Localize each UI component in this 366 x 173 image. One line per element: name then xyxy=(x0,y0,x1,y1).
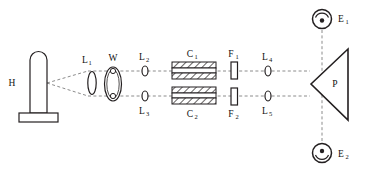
lens-L1-glyph xyxy=(88,72,96,95)
filter-F1-glyph xyxy=(231,62,238,79)
cell-C1-band-1 xyxy=(172,62,216,68)
cell-C1-gap-1 xyxy=(172,68,216,73)
cell-C2-gap-1 xyxy=(172,93,216,98)
label-C1: C xyxy=(187,49,193,59)
label-E2: E xyxy=(338,149,344,159)
optical-schematic-canvas: H L 1 W L 2 L 3 C 1 xyxy=(0,0,366,173)
cell-C2-band-1 xyxy=(172,87,216,93)
label-E2-sub: 2 xyxy=(345,153,348,160)
detector-E2-glyph xyxy=(313,144,332,163)
lamp-envelope xyxy=(30,52,47,114)
label-H: H xyxy=(9,78,16,88)
lens-L3-glyph xyxy=(142,91,148,101)
lens-L4-glyph xyxy=(265,66,271,76)
absorption-cell-C1-glyph xyxy=(172,62,216,79)
label-F1-sub: 1 xyxy=(235,53,238,60)
label-E1-sub: 1 xyxy=(345,18,348,25)
chopper-aperture-lower xyxy=(110,93,115,98)
chopper-wheel-W-glyph xyxy=(105,67,122,101)
label-L2-sub: 2 xyxy=(146,56,149,63)
detector-E1-pupil xyxy=(320,18,324,22)
label-L1: L xyxy=(82,55,88,65)
label-F2: F xyxy=(228,109,233,119)
filter-F2-glyph xyxy=(231,88,238,105)
lamp-base xyxy=(19,113,58,122)
label-L4: L xyxy=(262,52,268,62)
label-L3: L xyxy=(139,106,145,116)
label-W: W xyxy=(109,53,118,63)
optical-diagram: H L 1 W L 2 L 3 C 1 xyxy=(0,0,366,173)
lens-L2-glyph xyxy=(142,66,148,76)
label-F1: F xyxy=(228,49,233,59)
absorption-cell-C2-glyph xyxy=(172,87,216,104)
lens-L5-glyph xyxy=(265,91,271,101)
label-L5: L xyxy=(262,106,268,116)
label-L2: L xyxy=(139,52,145,62)
label-C2-sub: 2 xyxy=(194,113,197,120)
label-C1-sub: 1 xyxy=(194,53,197,60)
label-L1-sub: 1 xyxy=(88,59,91,66)
label-P: P xyxy=(332,79,337,89)
cell-C2-band-2 xyxy=(172,98,216,104)
cell-C1-band-2 xyxy=(172,73,216,79)
detector-E2-pupil xyxy=(320,149,324,153)
label-C2: C xyxy=(187,109,193,119)
detector-E1-glyph xyxy=(313,10,332,29)
label-L5-sub: 5 xyxy=(269,110,272,117)
chopper-aperture-upper xyxy=(110,68,115,73)
label-L3-sub: 3 xyxy=(146,110,149,117)
label-E1: E xyxy=(338,14,344,24)
label-F2-sub: 2 xyxy=(235,113,238,120)
